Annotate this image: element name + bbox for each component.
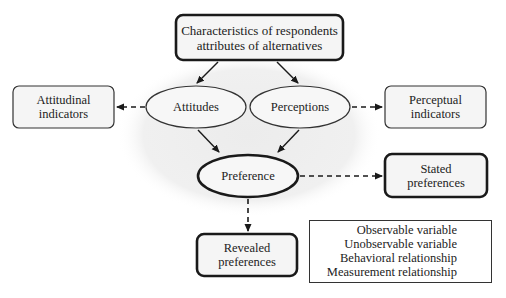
stated-preferences-label: Stated preferences [385,154,487,197]
characteristics-label: Characteristics of respondents attribute… [176,15,343,60]
stated-preferences-line1: Stated [420,162,451,176]
attitudinal-indicators-line2: indicators [39,107,88,121]
characteristics-label-line1: Characteristics of respondents [181,23,338,38]
revealed-preferences-line1: Revealed [224,241,271,255]
stated-preferences-line2: preferences [407,176,465,190]
perceptual-indicators-line2: indicators [411,107,460,121]
preference-label: Preference [198,155,298,197]
legend-box: Observable variable Unobservable variabl… [309,220,492,283]
attitudinal-indicators-line1: Attitudinal [36,93,90,107]
revealed-preferences-label: Revealed preferences [197,234,297,276]
perceptions-label: Perceptions [250,86,350,128]
perceptual-indicators-line1: Perceptual [409,93,462,107]
characteristics-label-line2: attributes of alternatives [197,38,323,53]
perceptual-indicators-label: Perceptual indicators [385,86,486,128]
attitudes-label: Attitudes [146,86,246,128]
legend-item-observable: Observable variable [357,223,457,237]
revealed-preferences-line2: preferences [218,255,276,269]
attitudinal-indicators-label: Attitudinal indicators [13,86,114,128]
legend-item-measurement: Measurement relationship [327,265,457,279]
legend-item-behavioral: Behavioral relationship [340,251,457,265]
legend-item-unobservable: Unobservable variable [344,237,457,251]
